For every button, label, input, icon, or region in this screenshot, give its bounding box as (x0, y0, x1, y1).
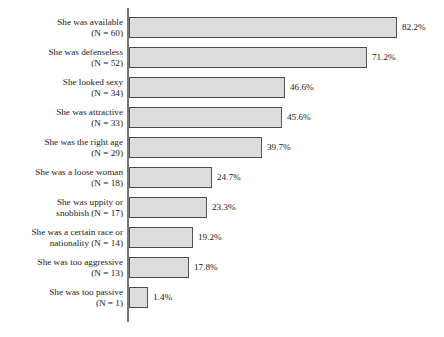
bar-group: 45.6% (129, 107, 311, 128)
category-label: She was the right age (N = 29) (0, 137, 123, 158)
bar (129, 47, 367, 68)
bar-row: She was available (N = 60) 82.2% (0, 17, 444, 47)
bar-rows: She was available (N = 60) 82.2% She was… (0, 17, 444, 317)
category-label: She was defenseless (N = 52) (0, 47, 123, 68)
value-label: 71.2% (372, 47, 396, 68)
bar-row: She was uppity or snobbish (N = 17) 23.3… (0, 197, 444, 227)
bar-group: 39.7% (129, 137, 291, 158)
category-label: She was attractive (N = 33) (0, 107, 123, 128)
value-label: 24.7% (217, 167, 241, 188)
bar (129, 197, 207, 218)
bar-row: She was too passive (N = 1) 1.4% (0, 287, 444, 317)
bar-group: 82.2% (129, 17, 426, 38)
bar (129, 287, 148, 308)
bar-row: She was a loose woman (N = 18) 24.7% (0, 167, 444, 197)
value-label: 46.6% (290, 77, 314, 98)
category-label: She was uppity or snobbish (N = 17) (0, 197, 123, 218)
category-label: She looked sexy (N = 34) (0, 77, 123, 98)
category-label: She was a certain race or nationality (N… (0, 227, 123, 248)
value-label: 82.2% (402, 17, 426, 38)
bar-row: She was a certain race or nationality (N… (0, 227, 444, 257)
bar-chart: She was available (N = 60) 82.2% She was… (0, 0, 444, 337)
value-label: 39.7% (267, 137, 291, 158)
bar (129, 137, 262, 158)
value-label: 1.4% (153, 287, 172, 308)
bar (129, 77, 285, 98)
bar-group: 71.2% (129, 47, 396, 68)
category-label: She was too aggressive (N = 13) (0, 257, 123, 278)
bar-group: 1.4% (129, 287, 172, 308)
bar-group: 46.6% (129, 77, 314, 98)
bar-row: She was attractive (N = 33) 45.6% (0, 107, 444, 137)
bar-row: She was too aggressive (N = 13) 17.8% (0, 257, 444, 287)
value-label: 17.8% (194, 257, 218, 278)
bar (129, 107, 282, 128)
value-label: 45.6% (287, 107, 311, 128)
value-label: 23.3% (212, 197, 236, 218)
bar (129, 17, 397, 38)
category-label: She was available (N = 60) (0, 17, 123, 38)
bar (129, 257, 189, 278)
bar-row: She looked sexy (N = 34) 46.6% (0, 77, 444, 107)
bar-row: She was defenseless (N = 52) 71.2% (0, 47, 444, 77)
bar (129, 227, 193, 248)
bar-group: 24.7% (129, 167, 241, 188)
bar (129, 167, 212, 188)
bar-row: She was the right age (N = 29) 39.7% (0, 137, 444, 167)
bar-group: 19.2% (129, 227, 222, 248)
bar-group: 17.8% (129, 257, 218, 278)
value-label: 19.2% (198, 227, 222, 248)
bar-group: 23.3% (129, 197, 236, 218)
category-label: She was too passive (N = 1) (0, 287, 123, 308)
category-label: She was a loose woman (N = 18) (0, 167, 123, 188)
